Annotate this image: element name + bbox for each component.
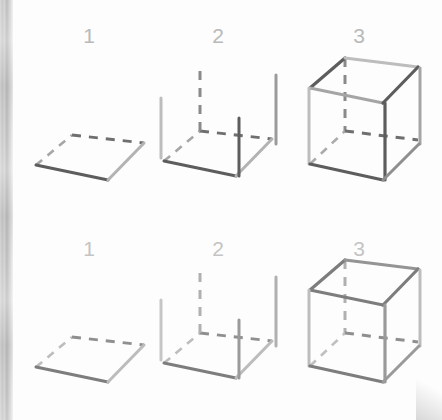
edge-base-front-left-solid [164, 363, 236, 378]
edge-base-back-left-dashed [36, 337, 72, 367]
edge-base-front-right-solid [108, 345, 144, 382]
edge-base-front-right-solid [236, 341, 272, 378]
edge-cube-top-back-left [310, 58, 345, 88]
figure-row2-step2 [150, 260, 295, 395]
step-label-row2-2: 2 [203, 237, 233, 261]
figure-row1-step1 [20, 110, 160, 200]
edge-base-back-right-dashed [72, 337, 144, 345]
figure-row1-step3 [298, 50, 430, 198]
complete-cube-svg [298, 50, 430, 198]
edge-cube-top-front-right [383, 67, 418, 103]
figure-row1-step2 [150, 58, 295, 193]
edge-cube-hidden-base-left-dashed [310, 333, 345, 366]
edge-cube-hidden-base-right-dashed [345, 131, 418, 140]
edge-base-back-left-dashed [164, 131, 200, 161]
edge-cube-top-front-right [383, 269, 418, 305]
base-square-svg-faded [20, 312, 160, 402]
edge-cube-bottom-front-left [310, 366, 383, 382]
edge-base-front-left-solid [164, 161, 236, 176]
page-binding-edge [0, 0, 13, 420]
figure-row2-step1 [20, 312, 160, 402]
complete-cube-svg-faded [298, 252, 430, 400]
edge-cube-hidden-base-right-dashed [345, 333, 418, 342]
step-label-row1-1: 1 [74, 24, 104, 48]
edge-cube-hidden-base-left-dashed [310, 131, 345, 164]
step-label-row1-2: 2 [203, 24, 233, 48]
step-label-row2-1: 1 [74, 237, 104, 261]
edge-base-front-left-solid [36, 367, 108, 382]
edge-base-front-left-solid [36, 165, 108, 180]
edge-cube-bottom-front-right [383, 144, 419, 180]
base-with-verticals-svg-faded [150, 260, 295, 395]
edge-base-back-left-dashed [36, 135, 72, 165]
edge-base-front-right-solid [236, 139, 272, 176]
base-with-verticals-svg [150, 58, 295, 193]
edge-cube-top-back-right [345, 58, 418, 67]
edge-base-back-right-dashed [200, 333, 272, 341]
edge-base-front-right-solid [108, 143, 144, 180]
edge-base-back-left-dashed [164, 333, 200, 363]
edge-cube-bottom-front-left [310, 164, 383, 180]
edge-cube-top-back-left [310, 260, 345, 290]
edge-cube-bottom-front-right [383, 346, 419, 382]
base-square-svg [20, 110, 160, 200]
step-label-row1-3: 3 [344, 24, 374, 48]
edge-base-back-right-dashed [200, 131, 272, 139]
figure-row2-step3 [298, 252, 430, 400]
edge-cube-top-back-right [345, 260, 418, 269]
edge-base-back-right-dashed [72, 135, 144, 143]
diagram-page: 1 2 3 [0, 0, 442, 420]
